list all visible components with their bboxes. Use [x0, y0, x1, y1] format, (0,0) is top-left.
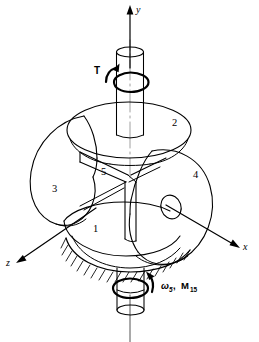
member-label-4: 4 [193, 169, 199, 180]
bevel-gear-differential-diagram: y x z T 2 3 4 5 1 ω 5 , M 15 [0, 0, 259, 342]
member-label-5: 5 [101, 166, 106, 177]
member-label-1: 1 [93, 223, 98, 234]
member-label-3: 3 [52, 183, 57, 194]
moment-subscript: 15 [190, 286, 198, 293]
label-separator: , [173, 280, 176, 291]
omega-symbol: ω [161, 280, 169, 291]
moment-symbol: M [181, 280, 189, 291]
torque-label: T [94, 65, 100, 76]
figure-container: y x z T 2 3 4 5 1 ω 5 , M 15 [0, 0, 259, 342]
z-axis-label: z [5, 257, 10, 268]
member-label-2: 2 [172, 117, 177, 128]
x-axis-label: x [242, 241, 248, 252]
y-axis-label: y [135, 4, 141, 15]
